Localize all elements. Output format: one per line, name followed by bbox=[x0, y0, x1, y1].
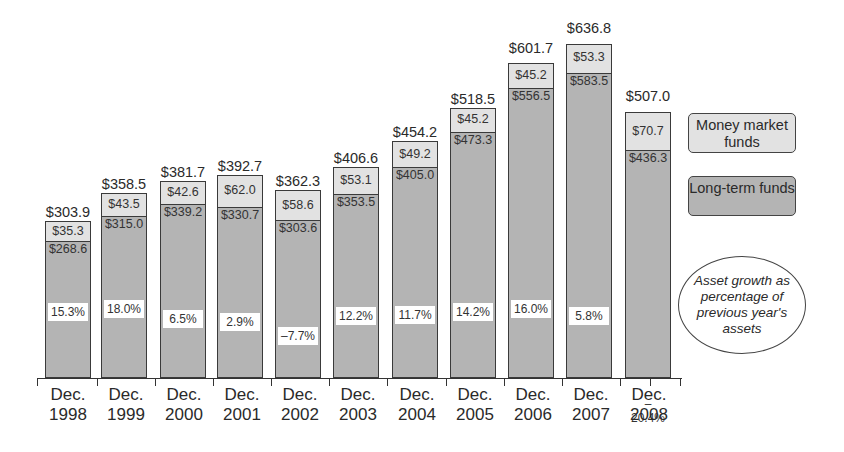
x-axis-label: Dec.2006 bbox=[503, 385, 563, 425]
bar-dec-2002: $58.6 $303.6 –7.7% bbox=[275, 190, 321, 378]
money-market-value: $53.1 bbox=[334, 173, 378, 187]
long-term-value: $583.5 bbox=[567, 74, 611, 88]
bar-dec-2004: $49.2 $405.0 11.7% bbox=[392, 141, 438, 378]
money-market-value: $70.7 bbox=[626, 124, 670, 138]
money-market-value: $62.0 bbox=[218, 183, 262, 197]
long-term-value: $436.3 bbox=[626, 151, 670, 165]
money-market-value: $49.2 bbox=[393, 147, 437, 161]
x-axis-tick bbox=[680, 378, 681, 386]
bar-dec-1999: $43.5 $315.0 18.0% bbox=[101, 193, 147, 378]
bar-total-label: $303.9 bbox=[28, 204, 108, 220]
bar-dec-1998: $35.3 $268.6 15.3% bbox=[45, 221, 91, 378]
long-term-value: $473.3 bbox=[451, 133, 495, 147]
long-term-value: $556.5 bbox=[509, 89, 553, 103]
bar-dec-2003: $53.1 $353.5 12.2% bbox=[333, 167, 379, 378]
long-term-value: $315.0 bbox=[102, 217, 146, 231]
bar-dec-2000: $42.6 $339.2 6.5% bbox=[160, 181, 206, 378]
x-axis-label: Dec.2002 bbox=[270, 385, 330, 425]
x-axis-label: Dec.2004 bbox=[387, 385, 447, 425]
stacked-bar-chart: $303.9 $35.3 $268.6 15.3% $358.5 $43.5 $… bbox=[0, 0, 844, 452]
x-axis-label: Dec.2008 bbox=[619, 385, 679, 425]
money-market-value: $53.3 bbox=[567, 50, 611, 64]
long-term-value: $353.5 bbox=[334, 195, 378, 209]
growth-percent: 2.9% bbox=[220, 313, 260, 331]
growth-percent: 15.3% bbox=[48, 303, 88, 321]
long-term-value: $330.7 bbox=[218, 208, 262, 222]
bar-total-label: $636.8 bbox=[549, 20, 629, 36]
growth-percent: 11.7% bbox=[395, 306, 435, 324]
bar-total-label: $362.3 bbox=[258, 173, 338, 189]
bar-total-label: $518.5 bbox=[433, 91, 513, 107]
money-market-value: $45.2 bbox=[451, 112, 495, 126]
bar-total-label: $454.2 bbox=[375, 124, 455, 140]
bar-total-label: $392.7 bbox=[200, 158, 280, 174]
long-term-value: $303.6 bbox=[276, 221, 320, 235]
bar-dec-2007: $53.3 $583.5 5.8% bbox=[566, 44, 612, 378]
growth-percent: 6.5% bbox=[163, 310, 203, 328]
bar-dec-2005: $45.2 $473.3 14.2% bbox=[450, 108, 496, 378]
growth-percent: 14.2% bbox=[453, 303, 493, 321]
bar-total-label: $601.7 bbox=[491, 40, 571, 56]
x-axis-label: Dec.2000 bbox=[154, 385, 214, 425]
long-term-value: $339.2 bbox=[161, 205, 205, 219]
x-axis bbox=[37, 378, 682, 379]
bar-dec-2006: $45.2 $556.5 16.0% bbox=[508, 63, 554, 378]
growth-percent: –7.7% bbox=[278, 327, 318, 345]
legend-long-term: Long-term funds bbox=[688, 176, 796, 216]
money-market-value: $43.5 bbox=[102, 197, 146, 211]
money-market-value: $58.6 bbox=[276, 198, 320, 212]
x-axis-label: Dec.2005 bbox=[445, 385, 505, 425]
x-axis-label: Dec.2007 bbox=[561, 385, 621, 425]
bar-total-label: $507.0 bbox=[608, 88, 688, 104]
x-axis-label: Dec.1999 bbox=[96, 385, 156, 425]
growth-percent: 12.2% bbox=[336, 307, 376, 325]
bar-dec-2001: $62.0 $330.7 2.9% bbox=[217, 175, 263, 378]
bar-total-label: $406.6 bbox=[316, 150, 396, 166]
x-axis-label: Dec.1998 bbox=[38, 385, 98, 425]
money-market-value: $35.3 bbox=[46, 224, 90, 238]
bar-dec-2008: $70.7 $436.3 –20.4% bbox=[625, 112, 671, 378]
long-term-value: $268.6 bbox=[46, 242, 90, 256]
long-term-value: $405.0 bbox=[393, 168, 437, 182]
growth-percent: 18.0% bbox=[104, 300, 144, 318]
x-axis-label: Dec.2003 bbox=[328, 385, 388, 425]
growth-annotation-ellipse: Asset growth as percentage of previous y… bbox=[678, 256, 806, 354]
growth-percent: 16.0% bbox=[511, 300, 551, 318]
money-market-value: $42.6 bbox=[161, 185, 205, 199]
money-market-value: $45.2 bbox=[509, 68, 553, 82]
growth-percent: 5.8% bbox=[569, 307, 609, 325]
legend-money-market: Money market funds bbox=[688, 113, 796, 153]
x-axis-label: Dec.2001 bbox=[212, 385, 272, 425]
